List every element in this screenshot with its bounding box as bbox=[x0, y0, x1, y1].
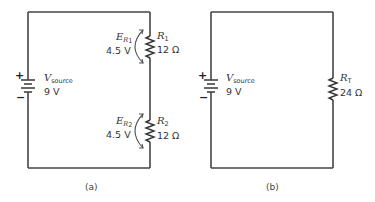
resistor-icon bbox=[329, 78, 337, 100]
resistor-r2-label: R2 bbox=[156, 115, 169, 128]
voltage-drop-r2-value: 4.5 V bbox=[106, 129, 131, 140]
panel-a-caption: (a) bbox=[85, 182, 98, 192]
source-label: Vsource bbox=[226, 72, 255, 85]
voltage-drop-arrow-icon bbox=[135, 114, 143, 148]
resistor-r2-value: 12 Ω bbox=[157, 130, 179, 141]
voltage-drop-r2-label: ER2 bbox=[115, 115, 132, 129]
voltage-drop-r1-label: ER1 bbox=[115, 31, 132, 45]
panel-b-caption: (b) bbox=[266, 182, 279, 192]
resistor-rt-value: 24 Ω bbox=[340, 87, 362, 98]
battery-minus-sign: − bbox=[199, 91, 208, 104]
resistor-rt-label: RT bbox=[339, 72, 352, 85]
battery-plus-sign: + bbox=[198, 69, 207, 82]
voltage-drop-r1-value: 4.5 V bbox=[106, 45, 131, 56]
panel-b-equivalent-circuit: + − Vsource 9 V RT 24 Ω (b) bbox=[198, 12, 362, 192]
source-value: 9 V bbox=[226, 86, 242, 97]
resistor-icon bbox=[146, 120, 154, 142]
voltage-drop-arrow-icon bbox=[135, 30, 143, 63]
battery-plus-sign: + bbox=[15, 69, 24, 82]
battery-minus-sign: − bbox=[16, 91, 25, 104]
resistor-icon bbox=[146, 36, 154, 58]
source-value: 9 V bbox=[44, 86, 60, 97]
circuit-figure: + − Vsource 9 V R1 12 Ω ER1 4.5 V R2 12 … bbox=[0, 0, 375, 202]
resistor-r1-value: 12 Ω bbox=[157, 44, 179, 55]
panel-a-series-circuit: + − Vsource 9 V R1 12 Ω ER1 4.5 V R2 12 … bbox=[15, 12, 179, 192]
source-label: Vsource bbox=[44, 72, 73, 85]
resistor-r1-label: R1 bbox=[156, 30, 169, 43]
